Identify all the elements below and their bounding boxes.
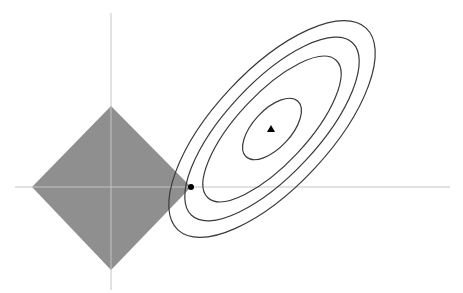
unconstrained-optimum-triangle-icon: [267, 125, 275, 132]
diagram-svg: [0, 0, 463, 293]
lasso-diagram: [0, 0, 463, 293]
constrained-solution-dot-icon: [188, 184, 194, 190]
contour-ellipse-1: [135, 0, 408, 269]
loss-contours: [135, 0, 408, 269]
